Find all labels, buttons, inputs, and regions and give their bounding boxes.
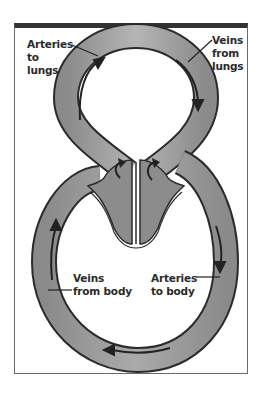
label-line: to body (151, 285, 197, 298)
label-line: Arteries (151, 272, 197, 285)
label-line: Veins (73, 272, 132, 285)
label-line: lungs (27, 64, 73, 77)
label-line: from body (73, 285, 132, 298)
label-line: lungs (212, 60, 243, 73)
label-line: Arteries (27, 38, 73, 51)
label-line: to (27, 51, 73, 64)
label-arteries-to-lungs: Arteries to lungs (27, 38, 73, 77)
label-veins-from-lungs: Veins from lungs (212, 34, 243, 73)
label-line: Veins (212, 34, 243, 47)
label-arteries-to-body: Arteries to body (151, 272, 197, 298)
label-line: from (212, 47, 243, 60)
systemic-loop (44, 162, 226, 360)
label-veins-from-body: Veins from body (73, 272, 132, 298)
